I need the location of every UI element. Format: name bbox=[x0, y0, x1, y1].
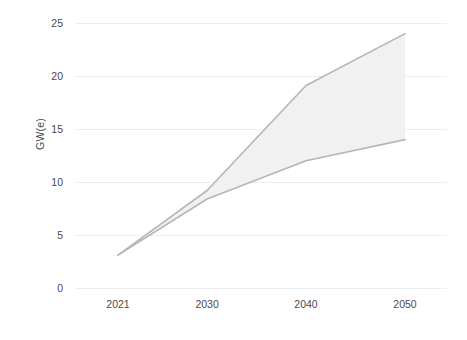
uncertainty-band-chart bbox=[75, 23, 447, 288]
chart-container: GW(e) 0510152025 2021203020402050 bbox=[0, 0, 467, 340]
x-axis-tick-label-group: 2021203020402050 bbox=[75, 298, 447, 318]
x-axis-tick-label: 2030 bbox=[177, 298, 237, 310]
x-axis-tick-label: 2040 bbox=[276, 298, 336, 310]
plot-area bbox=[75, 23, 447, 288]
y-axis-tick-label: 25 bbox=[29, 17, 63, 29]
y-axis-tick-label: 0 bbox=[29, 282, 63, 294]
x-axis-tick-label: 2050 bbox=[375, 298, 435, 310]
y-axis-tick-label: 20 bbox=[29, 70, 63, 82]
y-axis-tick-label: 5 bbox=[29, 229, 63, 241]
y-axis-tick-label: 15 bbox=[29, 123, 63, 135]
x-axis-tick-label: 2021 bbox=[88, 298, 148, 310]
gridline bbox=[75, 288, 447, 289]
y-axis-tick-label-group: 0510152025 bbox=[29, 23, 63, 288]
y-axis-tick-label: 10 bbox=[29, 176, 63, 188]
band-fill bbox=[118, 34, 405, 256]
